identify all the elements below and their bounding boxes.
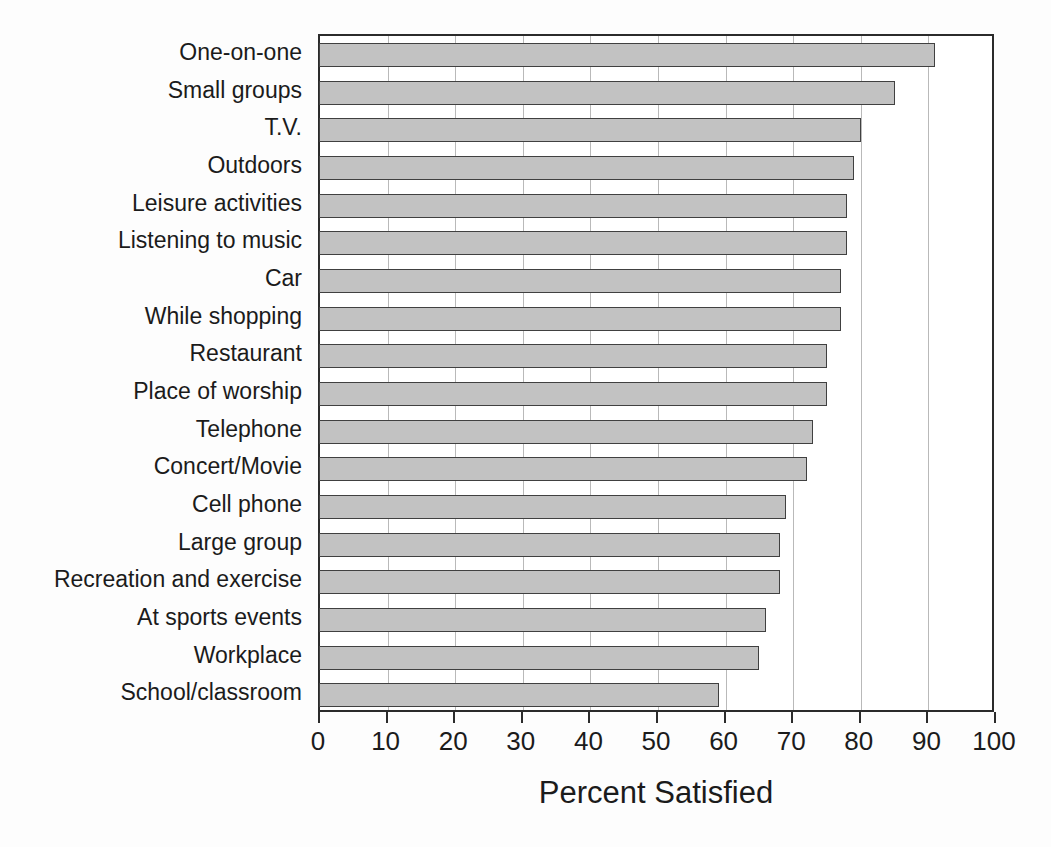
x-tick-label: 80 bbox=[844, 726, 873, 757]
bar-row bbox=[320, 224, 992, 262]
bar bbox=[319, 457, 807, 481]
bar-row bbox=[320, 639, 992, 677]
bar bbox=[319, 382, 827, 406]
category-label: Concert/Movie bbox=[154, 448, 302, 486]
x-tick-100 bbox=[994, 712, 996, 723]
bar bbox=[319, 683, 719, 707]
bar-row bbox=[320, 526, 992, 564]
bar bbox=[319, 495, 786, 519]
x-tick-label: 90 bbox=[912, 726, 941, 757]
x-tick-label: 60 bbox=[709, 726, 738, 757]
bar bbox=[319, 646, 759, 670]
category-label: Car bbox=[265, 260, 302, 298]
x-tick-10 bbox=[386, 712, 388, 723]
x-tick-label: 30 bbox=[506, 726, 535, 757]
x-tick-20 bbox=[453, 712, 455, 723]
x-axis-tick-labels: 0102030405060708090100 bbox=[318, 726, 994, 760]
x-tick-60 bbox=[724, 712, 726, 723]
bar-row bbox=[320, 262, 992, 300]
bar-row bbox=[320, 149, 992, 187]
bar-row bbox=[320, 563, 992, 601]
x-tick-label: 20 bbox=[439, 726, 468, 757]
bar bbox=[319, 231, 847, 255]
bar-row bbox=[320, 36, 992, 74]
bar bbox=[319, 608, 766, 632]
bar-series bbox=[320, 36, 992, 710]
x-tick-label: 0 bbox=[311, 726, 325, 757]
bar-row bbox=[320, 300, 992, 338]
x-tick-70 bbox=[791, 712, 793, 723]
category-label: At sports events bbox=[137, 599, 302, 637]
bar-row bbox=[320, 601, 992, 639]
bar-row bbox=[320, 337, 992, 375]
x-tick-label: 70 bbox=[777, 726, 806, 757]
category-label: Outdoors bbox=[207, 147, 302, 185]
bar bbox=[319, 269, 841, 293]
category-axis-labels: One-on-oneSmall groupsT.V.OutdoorsLeisur… bbox=[0, 34, 310, 712]
x-tick-label: 50 bbox=[642, 726, 671, 757]
bar-row bbox=[320, 488, 992, 526]
bar-row bbox=[320, 375, 992, 413]
x-axis-ticks bbox=[318, 712, 994, 726]
x-tick-50 bbox=[656, 712, 658, 723]
category-label: T.V. bbox=[264, 109, 302, 147]
x-tick-label: 40 bbox=[574, 726, 603, 757]
category-label: One-on-one bbox=[179, 34, 302, 72]
x-tick-0 bbox=[318, 712, 320, 723]
bar bbox=[319, 118, 861, 142]
category-label: Cell phone bbox=[192, 486, 302, 524]
bar-row bbox=[320, 413, 992, 451]
bar-row bbox=[320, 111, 992, 149]
category-label: Large group bbox=[178, 524, 302, 562]
bar bbox=[319, 570, 780, 594]
x-axis-title: Percent Satisfied bbox=[318, 775, 994, 811]
bar-row bbox=[320, 187, 992, 225]
bar bbox=[319, 194, 847, 218]
bar bbox=[319, 344, 827, 368]
category-label: Listening to music bbox=[118, 222, 302, 260]
category-label: Restaurant bbox=[189, 335, 302, 373]
x-tick-80 bbox=[859, 712, 861, 723]
category-label: Leisure activities bbox=[132, 185, 302, 223]
category-label: Recreation and exercise bbox=[54, 561, 302, 599]
x-tick-40 bbox=[588, 712, 590, 723]
x-tick-30 bbox=[521, 712, 523, 723]
x-tick-label: 10 bbox=[371, 726, 400, 757]
category-label: Workplace bbox=[194, 637, 302, 675]
bar bbox=[319, 43, 935, 67]
category-label: School/classroom bbox=[120, 674, 302, 712]
bar-chart: One-on-oneSmall groupsT.V.OutdoorsLeisur… bbox=[0, 0, 1051, 847]
bar-row bbox=[320, 74, 992, 112]
bar bbox=[319, 156, 854, 180]
bar bbox=[319, 533, 780, 557]
bar bbox=[319, 81, 895, 105]
category-label: Telephone bbox=[196, 411, 302, 449]
category-label: Small groups bbox=[168, 72, 302, 110]
category-label: Place of worship bbox=[133, 373, 302, 411]
x-tick-label: 100 bbox=[972, 726, 1015, 757]
bar bbox=[319, 420, 813, 444]
x-tick-90 bbox=[926, 712, 928, 723]
category-label: While shopping bbox=[145, 298, 302, 336]
bar-row bbox=[320, 676, 992, 714]
bar bbox=[319, 307, 841, 331]
bar-row bbox=[320, 450, 992, 488]
plot-area bbox=[318, 34, 994, 712]
